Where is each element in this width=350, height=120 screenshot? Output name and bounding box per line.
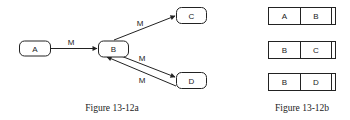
node-label-d: D: [189, 77, 195, 86]
record-box-2: B C: [269, 42, 336, 59]
node-a: A: [20, 41, 51, 56]
diagram-canvas: M M M M A B C D Figure: [0, 0, 350, 120]
record-box-1: A B: [269, 8, 336, 25]
edge-label-b-d: M: [139, 54, 146, 63]
edge-b-c: M: [114, 16, 175, 40]
node-d: D: [177, 73, 207, 89]
record-box-3: B D: [269, 74, 336, 91]
arrow-b-to-c: [114, 16, 175, 40]
node-label-a: A: [32, 45, 38, 54]
edge-label-d-b: M: [139, 76, 146, 85]
edge-a-b: M: [51, 38, 97, 49]
record-3-second: D: [313, 78, 319, 87]
node-c: C: [177, 8, 207, 24]
figure-b: A B B C B D Figure 13-12b: [269, 8, 336, 114]
record-2-second: C: [313, 46, 319, 55]
node-label-c: C: [189, 12, 195, 21]
record-1-first: A: [282, 12, 288, 21]
node-label-b: B: [111, 45, 116, 54]
record-2-first: B: [282, 46, 287, 55]
record-1-second: B: [313, 12, 318, 21]
node-b: B: [99, 41, 129, 57]
edge-label-b-c: M: [137, 19, 144, 28]
record-3-first: B: [282, 78, 287, 87]
figure-a: M M M M A B C D Figure: [20, 8, 207, 114]
edge-label-a-b: M: [68, 38, 75, 47]
caption-figure-a: Figure 13-12a: [85, 103, 139, 113]
edge-b-d: M: [121, 54, 175, 77]
caption-figure-b: Figure 13-12b: [275, 103, 329, 113]
